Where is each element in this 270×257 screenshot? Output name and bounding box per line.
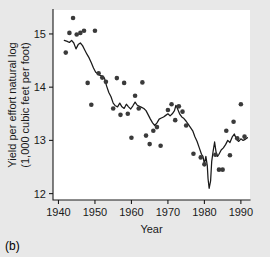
data-point <box>158 143 163 148</box>
data-point <box>96 71 101 76</box>
data-point <box>151 129 156 134</box>
data-point <box>180 109 185 114</box>
data-point <box>118 113 123 118</box>
x-tick-label: 1980 <box>192 206 216 218</box>
data-point <box>224 129 229 134</box>
y-tick-label: 14 <box>34 81 46 93</box>
data-point <box>169 102 174 107</box>
x-tick-label: 1990 <box>229 206 253 218</box>
x-tick-label: 1960 <box>119 206 143 218</box>
data-point <box>155 125 160 130</box>
data-point <box>89 102 94 107</box>
data-point <box>228 153 233 158</box>
data-point <box>147 142 152 147</box>
plot-area-background <box>53 10 250 200</box>
data-point <box>242 134 247 139</box>
data-point <box>133 93 138 98</box>
data-point <box>235 136 240 141</box>
scatter-chart: 12131415194019501960197019801990 YearYie… <box>0 0 270 257</box>
data-point <box>202 162 207 167</box>
y-tick-label: 15 <box>34 28 46 40</box>
data-point <box>173 118 178 123</box>
data-point <box>125 111 130 116</box>
data-point <box>93 28 98 33</box>
y-axis-title: Yield per effort natural log(1,000 cubic… <box>6 42 31 167</box>
figure-panel: 12131415194019501960197019801990 YearYie… <box>0 0 270 257</box>
data-point <box>191 151 196 156</box>
data-point <box>129 135 134 140</box>
data-point <box>122 81 127 86</box>
data-point <box>104 80 109 85</box>
data-point <box>213 152 218 157</box>
x-tick-label: 1950 <box>83 206 107 218</box>
data-point <box>82 28 87 33</box>
data-point <box>63 50 68 55</box>
data-point <box>198 155 203 160</box>
y-tick-label: 12 <box>34 188 46 200</box>
data-point <box>184 123 189 128</box>
data-point <box>220 167 225 172</box>
data-point <box>166 108 171 113</box>
data-point <box>231 119 236 124</box>
data-point <box>177 104 182 109</box>
x-tick-label: 1970 <box>156 206 180 218</box>
data-point <box>115 76 120 81</box>
data-point <box>71 16 76 21</box>
panel-caption-text: (b) <box>5 239 20 253</box>
x-tick-label: 1940 <box>46 206 70 218</box>
data-point <box>85 81 90 86</box>
data-point <box>136 106 141 111</box>
y-tick-label: 13 <box>34 134 46 146</box>
data-point <box>100 75 105 80</box>
data-point <box>111 106 116 111</box>
x-axis-title: Year <box>140 223 163 235</box>
panel-caption: (b) <box>5 236 20 254</box>
data-point <box>239 102 244 107</box>
data-point <box>144 133 149 138</box>
data-point <box>67 31 72 36</box>
data-point <box>140 80 145 85</box>
